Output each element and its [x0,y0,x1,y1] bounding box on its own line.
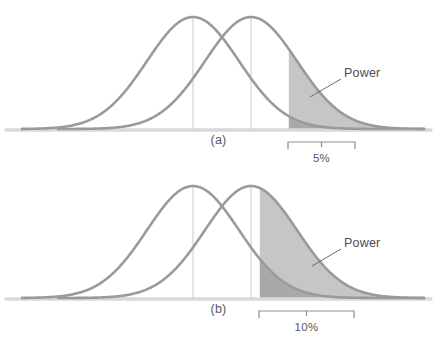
panel-a: (a) 5% Power [0,0,437,169]
panel-a-significance-label: 5% [292,152,352,164]
panel-b-significance-label: 10% [277,321,337,333]
power-figure: (a) 5% Power (b) 10% Power [0,0,437,338]
panel-b-power-label: Power [344,236,380,250]
panel-a-caption: (a) [0,133,437,147]
panel-a-power-label: Power [344,66,380,80]
panel-b-caption: (b) [0,302,437,316]
panel-b: (b) 10% Power [0,169,437,338]
power-region [288,48,424,129]
